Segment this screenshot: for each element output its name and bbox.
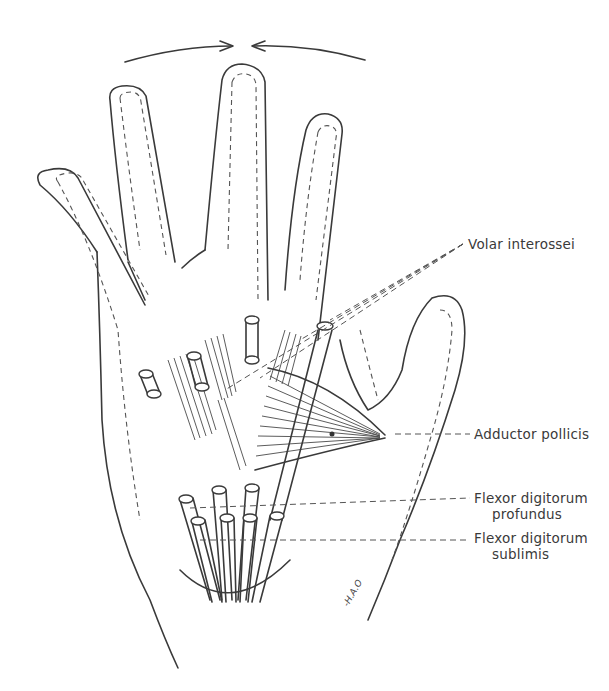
- adduction-arrows: [125, 41, 365, 62]
- label-flexor-profundus: Flexor digitorum profundus: [474, 490, 588, 522]
- label-flexor-sublimis-line1: Flexor digitorum: [474, 530, 588, 546]
- label-volar-interossei: Volar interossei: [468, 236, 575, 252]
- label-flexor-profundus-line1: Flexor digitorum: [474, 490, 588, 506]
- label-flexor-profundus-line2: profundus: [474, 506, 588, 522]
- label-adductor-pollicis: Adductor pollicis: [474, 426, 589, 442]
- adductor-pollicis-muscle: [255, 368, 385, 470]
- flexor-tendon-bundle: [179, 484, 290, 602]
- interossei-muscles: [168, 330, 301, 470]
- label-flexor-sublimis-line2: sublimis: [474, 546, 588, 562]
- finger-tendon-stubs: [139, 316, 259, 398]
- label-flexor-sublimis: Flexor digitorum sublimis: [474, 530, 588, 562]
- hand-anatomy-diagram: [0, 0, 609, 691]
